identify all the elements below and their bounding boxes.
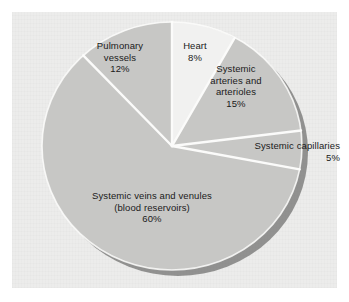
slice-label-systemic-arteries: Systemic arteries and arterioles 15% [198, 63, 274, 109]
arteries-label-line3: arterioles [216, 86, 256, 97]
pulmonary-label-line1: Pulmonary [97, 40, 143, 51]
veins-percent: 60% [64, 213, 240, 225]
slice-label-heart: Heart 8% [172, 40, 218, 63]
slice-label-systemic-capillaries: Systemic capillaries 5% [206, 140, 340, 163]
slice-label-pulmonary-vessels: Pulmonary vessels 12% [82, 40, 158, 75]
pulmonary-label-line2: vessels [104, 52, 136, 63]
veins-label-line1: Systemic veins and venules [92, 190, 212, 201]
pulmonary-percent: 12% [82, 63, 158, 75]
slice-label-systemic-veins: Systemic veins and venules (blood reserv… [64, 190, 240, 225]
arteries-label-line2: arteries and [210, 75, 261, 86]
veins-label-line2: (blood reservoirs) [114, 202, 190, 213]
capillaries-percent: 5% [206, 152, 340, 164]
figure-canvas: Pulmonary vessels 12% Heart 8% Systemic … [0, 0, 349, 302]
capillaries-label-line1: Systemic capillaries [255, 140, 340, 151]
arteries-label-line1: Systemic [216, 63, 255, 74]
pie-chart: Pulmonary vessels 12% Heart 8% Systemic … [0, 0, 349, 302]
heart-percent: 8% [172, 52, 218, 64]
arteries-percent: 15% [198, 98, 274, 110]
heart-label-line1: Heart [183, 40, 207, 51]
